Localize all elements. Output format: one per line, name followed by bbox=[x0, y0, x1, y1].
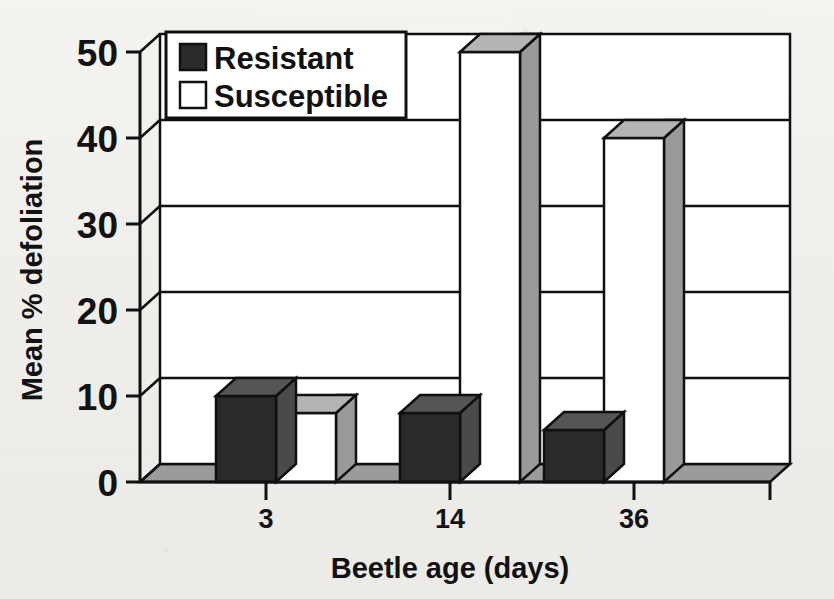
y-tick-label-50: 50 bbox=[77, 33, 118, 74]
x-tick-label-14: 14 bbox=[435, 504, 465, 534]
x-tick-label-36: 36 bbox=[619, 504, 649, 534]
y-tick-label-20: 20 bbox=[77, 291, 118, 332]
y-tick-label-10: 10 bbox=[77, 377, 118, 418]
chart-legend[interactable]: Resistant Susceptible bbox=[166, 32, 406, 118]
y-tick-label-0: 0 bbox=[97, 463, 118, 504]
bar-resistant-14 bbox=[400, 395, 480, 482]
legend-swatch-resistant bbox=[180, 44, 206, 70]
y-tick-label-40: 40 bbox=[77, 119, 118, 160]
legend-label-resistant: Resistant bbox=[214, 41, 354, 76]
x-axis bbox=[140, 482, 770, 500]
x-tick-label-3: 3 bbox=[258, 504, 273, 534]
legend-swatch-susceptible bbox=[180, 82, 206, 108]
bar-resistant-36 bbox=[544, 412, 624, 482]
bar-chart: 50 40 30 20 10 0 bbox=[0, 0, 834, 599]
bar-resistant-3 bbox=[216, 378, 296, 482]
axis-depth-connectors bbox=[140, 34, 160, 482]
x-axis-title: Beetle age (days) bbox=[331, 552, 570, 584]
y-axis bbox=[126, 52, 140, 482]
legend-item-resistant[interactable]: Resistant bbox=[180, 41, 354, 76]
y-axis-title: Mean % defoliation bbox=[16, 139, 48, 402]
legend-label-susceptible: Susceptible bbox=[214, 79, 388, 114]
chart-canvas: 50 40 30 20 10 0 bbox=[0, 0, 834, 599]
y-tick-label-30: 30 bbox=[77, 205, 118, 246]
